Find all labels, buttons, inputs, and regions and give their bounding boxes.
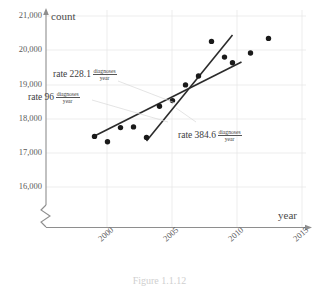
y-axis-arrow [43,8,49,15]
y-tick-label: 17,000 [0,147,42,157]
annotation-rate-384-text: rate 384.6 [178,130,216,140]
annotation-leaders [92,81,196,122]
data-point [266,36,271,41]
y-tick-label: 16,000 [0,181,42,191]
data-point [144,135,149,140]
figure-caption: Figure 1.1.12 [0,275,319,286]
grid-horizontal [46,16,306,187]
annotation-rate-228-text: rate 228.1 [53,69,91,79]
data-point [118,125,123,130]
data-point [105,139,110,144]
annotation-rate-228-units: diagnosesyear [93,68,117,82]
annotation-rate-384-units: diagnosesyear [218,129,242,143]
axis-break-zigzag [41,205,50,227]
y-tick-label: 18,000 [0,113,42,123]
data-point [92,134,97,139]
data-point [157,104,162,109]
data-point [222,54,227,59]
y-tick-label: 21,000 [0,10,42,20]
annotation-rate-96-text: rate 96 [28,92,54,102]
data-point [248,50,253,55]
data-point [209,39,214,44]
data-point [131,124,136,129]
x-axis-title: year [278,209,297,221]
data-point [183,82,188,87]
y-tick-label: 20,000 [0,44,42,54]
y-axis-title: count [51,10,75,22]
trendline-steep [147,35,233,141]
y-tick-label: 19,000 [0,79,42,89]
data-point [230,60,235,65]
data-point [196,73,201,78]
annotation-rate-228: rate 228.1diagnosesyear [53,68,117,82]
annotation-rate-384: rate 384.6diagnosesyear [178,129,242,143]
annotation-rate-96-units: diagnosesyear [56,91,80,105]
annotation-rate-96: rate 96diagnosesyear [28,91,80,105]
